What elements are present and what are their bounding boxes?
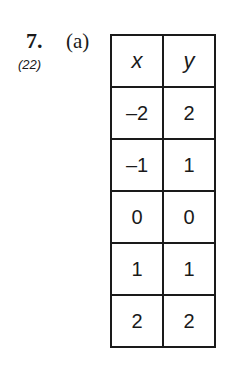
table-row: 2 2 (111, 295, 215, 347)
problem-number: 7. (26, 30, 43, 52)
table-row: 0 0 (111, 191, 215, 243)
cell-y: 1 (163, 139, 215, 191)
cell-x: 1 (111, 243, 163, 295)
header-x: x (111, 35, 163, 87)
cell-y: 0 (163, 191, 215, 243)
table-row: –2 2 (111, 87, 215, 139)
cell-x: –2 (111, 87, 163, 139)
table-row: –1 1 (111, 139, 215, 191)
table-row: 1 1 (111, 243, 215, 295)
cell-x: –1 (111, 139, 163, 191)
xy-values-table: x y –2 2 –1 1 0 0 1 1 2 2 (110, 34, 216, 348)
part-label: (a) (66, 30, 89, 52)
cell-y: 2 (163, 295, 215, 347)
table-header-row: x y (111, 35, 215, 87)
header-y: y (163, 35, 215, 87)
lesson-reference: (22) (18, 58, 41, 72)
cell-y: 1 (163, 243, 215, 295)
cell-y: 2 (163, 87, 215, 139)
cell-x: 2 (111, 295, 163, 347)
cell-x: 0 (111, 191, 163, 243)
